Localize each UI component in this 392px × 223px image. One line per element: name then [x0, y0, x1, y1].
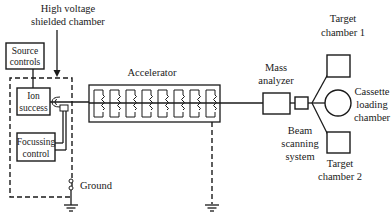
target-chamber-2-line-2: chamber 2 — [318, 171, 362, 182]
arrow-down-icon — [54, 30, 61, 77]
beam-scanning-box — [295, 97, 308, 109]
high-voltage-chamber-title: High voltage shielded chamber — [31, 3, 105, 27]
accelerator-label: Accelerator — [128, 67, 177, 78]
ground-switch-icon — [69, 179, 73, 205]
focussing-control-line-2: control — [23, 149, 50, 159]
target-chamber-2-line-1: Target — [327, 158, 354, 169]
beam-scanning-line-3: system — [285, 151, 314, 162]
beam-scanning-line-1: Beam — [288, 125, 313, 136]
source-controls-line-2: controls — [10, 57, 41, 67]
ion-source-box: Ion success — [17, 88, 50, 115]
ion-implanter-diagram: High voltage shielded chamber Source con… — [0, 0, 392, 223]
target-chamber-2-box — [327, 132, 350, 153]
ion-source-line-1: Ion — [27, 91, 40, 101]
mass-analyzer-line-2: analyzer — [258, 75, 294, 86]
source-controls-box: Source controls — [6, 43, 44, 69]
title-line-2: shielded chamber — [31, 16, 105, 27]
source-controls-line-1: Source — [12, 46, 38, 56]
mass-analyzer-box — [263, 93, 290, 114]
beam-scanning-line-2: scanning — [281, 138, 319, 149]
cassette-loading-line-1: Cassette — [355, 86, 390, 97]
cassette-loading-line-2: loading — [356, 99, 388, 110]
ion-source-line-2: success — [19, 103, 48, 113]
focussing-control-box: Focussing control — [17, 133, 56, 161]
target-chamber-1-box — [327, 55, 350, 77]
target-chamber-1-line-1: Target — [330, 13, 357, 24]
cassette-loading-line-3: chamber — [354, 112, 391, 123]
mass-analyzer-line-1: Mass — [265, 62, 287, 73]
cassette-loading-chamber-circle — [325, 90, 351, 116]
accelerator-ground-icon — [205, 205, 219, 211]
focussing-control-line-1: Focussing — [17, 137, 56, 147]
title-line-1: High voltage — [41, 3, 96, 14]
ground-label: Ground — [80, 180, 113, 191]
target-chamber-1-line-2: chamber 1 — [321, 27, 365, 38]
ground-symbol-icon — [64, 205, 78, 211]
